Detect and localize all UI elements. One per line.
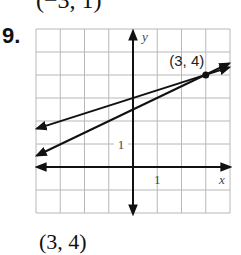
- coordinate-graph: (3, 4)yx11: [0, 0, 241, 255]
- y-tick-label: 1: [118, 137, 125, 152]
- answer-text: (3, 4): [39, 229, 87, 255]
- intersection-point-marker: [202, 72, 209, 79]
- x-tick-label: 1: [154, 172, 161, 187]
- y-axis-label: y: [140, 29, 148, 44]
- graph-labels: (3, 4)yx11: [114, 29, 225, 187]
- x-axis-label: x: [218, 172, 225, 187]
- point-label: (3, 4): [169, 52, 204, 69]
